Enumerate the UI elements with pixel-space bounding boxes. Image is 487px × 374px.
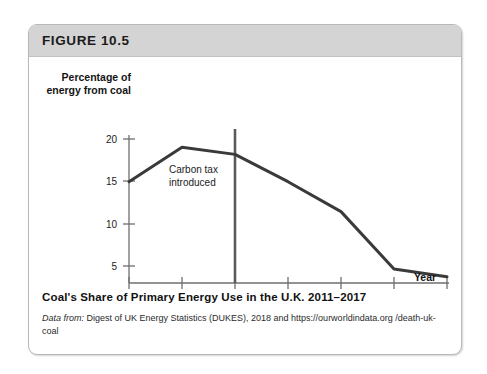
y-tick-label-10: 10	[106, 219, 118, 230]
figure-card: FIGURE 10.5 Percentage of energy from co…	[28, 24, 462, 355]
source-text: Digest of UK Energy Statistics (DUKES), …	[42, 313, 436, 336]
line-chart-svg: 20 15 10 5 2011 2012 2013 2014 2015 2016	[29, 57, 463, 291]
y-tick-label-20: 20	[106, 134, 118, 145]
y-axis-ticks: 20 15 10 5	[106, 134, 135, 272]
figure-header-bar: FIGURE 10.5	[29, 25, 461, 57]
y-tick-label-15: 15	[106, 176, 118, 187]
figure-caption-title: Coal's Share of Primary Energy Use in th…	[42, 291, 450, 303]
figure-number-label: FIGURE 10.5	[42, 33, 130, 48]
y-tick-label-5: 5	[111, 261, 117, 272]
chart-plot-area: Percentage of energy from coal 20 15 10 …	[29, 57, 463, 291]
carbon-tax-annotation: Carbon tax introduced	[169, 163, 231, 189]
figure-caption-block: Coal's Share of Primary Energy Use in th…	[29, 291, 463, 337]
carbon-tax-annotation-line2: introduced	[169, 177, 216, 188]
source-lead: Data from:	[42, 313, 84, 323]
x-axis-title: Year	[399, 271, 451, 283]
carbon-tax-annotation-line1: Carbon tax	[169, 164, 218, 175]
figure-source-note: Data from: Digest of UK Energy Statistic…	[42, 312, 450, 337]
